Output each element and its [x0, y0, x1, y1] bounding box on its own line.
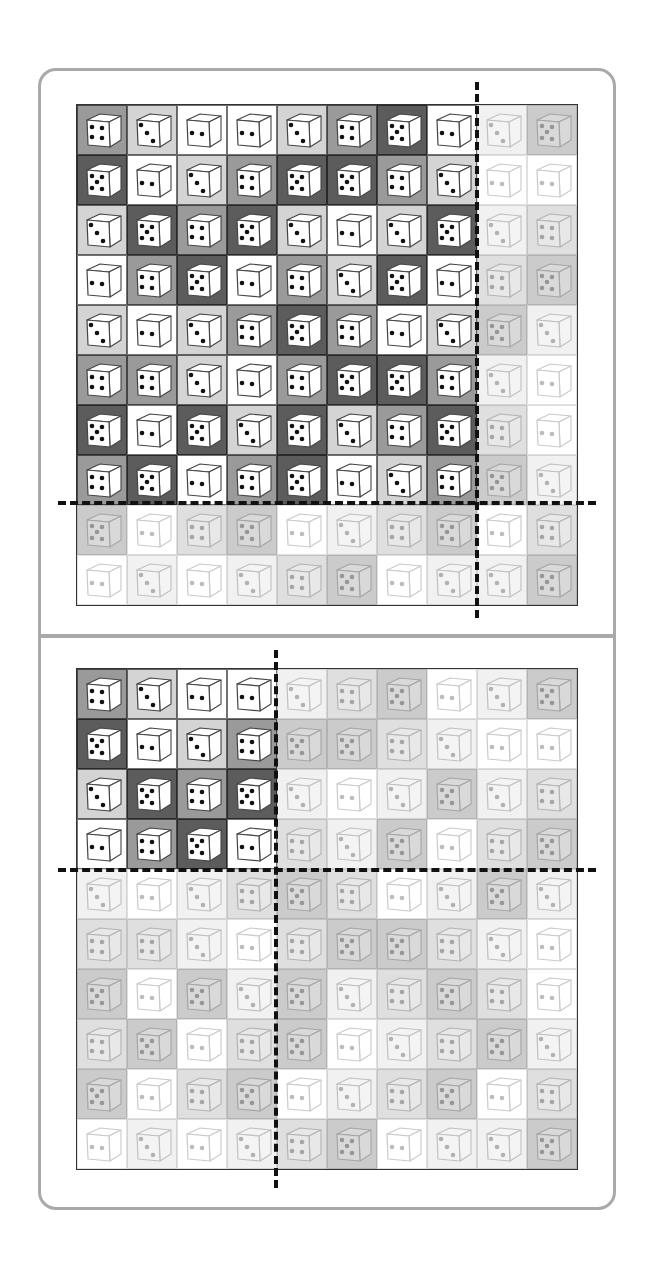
die-face-2-icon	[233, 360, 275, 402]
die-cell-5	[277, 305, 327, 355]
die-cell-2	[127, 505, 177, 555]
die-face-5-icon	[183, 410, 225, 452]
die-face-2-icon	[133, 874, 175, 916]
die-face-5-icon	[83, 1074, 125, 1116]
die-face-5-icon	[83, 724, 125, 766]
die-cell-4	[277, 555, 327, 605]
die-face-5-icon	[183, 824, 225, 866]
die-face-4-icon	[333, 874, 375, 916]
die-face-5-icon	[233, 774, 275, 816]
die-face-3-icon	[333, 1074, 375, 1116]
die-face-2-icon	[483, 724, 525, 766]
die-face-3-icon	[133, 110, 175, 152]
die-cell-3	[427, 719, 477, 769]
die-cell-5	[277, 969, 327, 1019]
die-cell-3	[177, 919, 227, 969]
die-cell-3	[277, 105, 327, 155]
die-face-4-icon	[283, 924, 325, 966]
die-face-5-icon	[283, 410, 325, 452]
die-cell-3	[377, 455, 427, 505]
die-face-3-icon	[333, 824, 375, 866]
die-face-3-icon	[333, 974, 375, 1016]
die-cell-3	[77, 869, 127, 919]
die-cell-3	[177, 355, 227, 405]
die-face-4-icon	[83, 674, 125, 716]
die-face-3-icon	[433, 874, 475, 916]
die-cell-3	[277, 669, 327, 719]
die-cell-2	[277, 505, 327, 555]
die-cell-3	[277, 769, 327, 819]
die-face-5-icon	[333, 160, 375, 202]
die-cell-2	[327, 1019, 377, 1069]
die-cell-3	[477, 769, 527, 819]
die-face-2-icon	[533, 924, 575, 966]
die-cell-5	[327, 919, 377, 969]
die-face-4-icon	[383, 160, 425, 202]
die-face-5-icon	[133, 774, 175, 816]
die-cell-5	[77, 1069, 127, 1119]
die-face-2-icon	[133, 974, 175, 1016]
die-cell-3	[427, 155, 477, 205]
die-cell-5	[427, 1069, 477, 1119]
die-face-5-icon	[83, 160, 125, 202]
die-cell-3	[177, 719, 227, 769]
die-face-4-icon	[133, 360, 175, 402]
die-face-3-icon	[533, 1024, 575, 1066]
die-cell-2	[527, 919, 577, 969]
die-face-3-icon	[483, 210, 525, 252]
die-cell-4	[127, 919, 177, 969]
die-cell-4	[527, 1069, 577, 1119]
die-cell-4	[177, 1069, 227, 1119]
die-face-2-icon	[533, 160, 575, 202]
die-face-3-icon	[383, 460, 425, 502]
die-cell-5	[327, 155, 377, 205]
die-face-2-icon	[383, 310, 425, 352]
die-face-5-icon	[533, 674, 575, 716]
die-face-5-icon	[533, 110, 575, 152]
die-cell-2	[227, 669, 277, 719]
die-cell-2	[177, 105, 227, 155]
die-cell-4	[477, 405, 527, 455]
die-cell-4	[277, 1119, 327, 1169]
die-cell-3	[127, 669, 177, 719]
die-cell-2	[427, 669, 477, 719]
die-cell-3	[227, 1119, 277, 1169]
die-face-3-icon	[483, 560, 525, 602]
die-cell-2	[177, 669, 227, 719]
die-face-4-icon	[383, 510, 425, 552]
die-cell-5	[377, 819, 427, 869]
die-cell-3	[477, 1119, 527, 1169]
die-face-4-icon	[233, 1024, 275, 1066]
die-face-4-icon	[383, 410, 425, 452]
die-cell-3	[327, 405, 377, 455]
die-cell-5	[177, 255, 227, 305]
die-cell-4	[427, 455, 477, 505]
dice-grid-8x8-highlight	[76, 104, 578, 606]
die-face-4-icon	[533, 774, 575, 816]
die-face-2-icon	[383, 560, 425, 602]
die-face-2-icon	[233, 110, 275, 152]
die-face-5-icon	[433, 210, 475, 252]
die-face-5-icon	[283, 1024, 325, 1066]
die-cell-5	[77, 505, 127, 555]
die-face-2-icon	[483, 510, 525, 552]
die-cell-2	[377, 869, 427, 919]
die-cell-2	[377, 305, 427, 355]
die-face-3-icon	[183, 724, 225, 766]
die-cell-2	[127, 969, 177, 1019]
die-cell-2	[127, 155, 177, 205]
die-cell-5	[177, 405, 227, 455]
dice-grid-4x4-highlight	[76, 668, 578, 1170]
die-cell-5	[177, 969, 227, 1019]
die-cell-3	[227, 555, 277, 605]
die-face-5-icon	[83, 410, 125, 452]
die-face-3-icon	[133, 1124, 175, 1166]
die-cell-4	[127, 355, 177, 405]
die-cell-3	[477, 919, 527, 969]
die-face-2-icon	[533, 974, 575, 1016]
panel-divider	[38, 634, 616, 638]
die-cell-4	[327, 105, 377, 155]
die-cell-5	[177, 819, 227, 869]
die-face-2-icon	[133, 310, 175, 352]
die-cell-4	[427, 355, 477, 405]
